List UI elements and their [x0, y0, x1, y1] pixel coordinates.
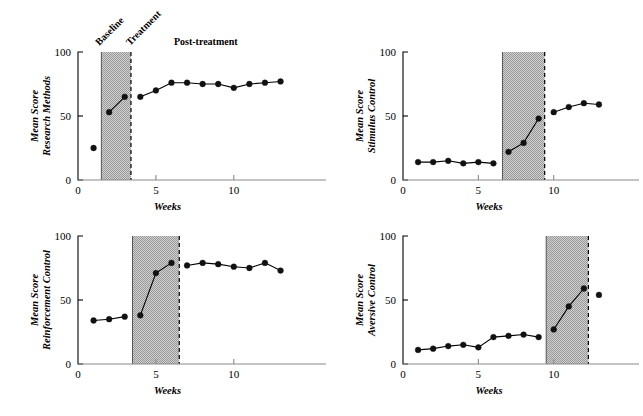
data-point [475, 344, 481, 350]
x-tick-label: 10 [228, 184, 240, 196]
y-tick-label: 50 [60, 110, 72, 122]
x-axis-title: Weeks [154, 201, 181, 212]
y-axis-title-top: Mean Score [29, 274, 40, 328]
data-point [536, 116, 542, 122]
x-tick-label: 0 [400, 184, 406, 196]
x-tick-label: 5 [153, 184, 159, 196]
treatment-band [546, 236, 588, 364]
x-tick-label: 10 [548, 184, 560, 196]
data-point [566, 304, 572, 310]
data-point [278, 79, 284, 85]
data-point [581, 100, 587, 106]
y-tick-label: 100 [55, 46, 72, 58]
data-point [200, 260, 206, 266]
x-tick-label: 5 [476, 184, 482, 196]
series-line-post-treatment [140, 81, 280, 96]
data-point [137, 312, 143, 318]
y-axis-title-bottom: Reinforcement Control [41, 250, 52, 351]
data-point [506, 333, 512, 339]
data-point [521, 332, 527, 338]
data-point [231, 85, 237, 91]
y-axis-title-bottom: Research Methods [41, 76, 52, 157]
y-tick-label: 0 [66, 174, 72, 186]
chart-panel-research-methods: 0501000510Mean ScoreResearch MethodsWeek… [0, 0, 330, 212]
multiple-baseline-figure: 0501000510Mean ScoreResearch MethodsWeek… [0, 0, 643, 416]
data-point [596, 292, 602, 298]
data-point [122, 94, 128, 100]
data-point [460, 160, 466, 166]
y-axis-title-top: Mean Score [29, 90, 40, 144]
x-tick-label: 10 [548, 368, 560, 380]
data-point [430, 346, 436, 352]
data-point [445, 158, 451, 164]
data-point [491, 160, 497, 166]
data-point [262, 80, 268, 86]
data-point [246, 265, 252, 271]
chart-panel-reinforcement-control: 0501000510Mean ScoreReinforcement Contro… [0, 212, 330, 416]
data-point [184, 263, 190, 269]
chart-panel-aversive-control: 0501000510Mean ScoreAversive ControlWeek… [330, 212, 643, 416]
data-point [581, 286, 587, 292]
data-point [551, 109, 557, 115]
data-point [231, 264, 237, 270]
x-axis-title: Weeks [475, 385, 502, 396]
y-tick-label: 50 [60, 294, 72, 306]
treatment-band [101, 52, 131, 180]
x-axis-title: Weeks [154, 385, 181, 396]
phase-label-treatment: Treatment [124, 8, 164, 48]
data-point [445, 343, 451, 349]
y-tick-label: 100 [380, 46, 397, 58]
data-point [262, 260, 268, 266]
data-point [415, 347, 421, 353]
phase-label-baseline: Baseline [93, 14, 126, 47]
data-point [169, 260, 175, 266]
data-point [506, 149, 512, 155]
data-point [521, 140, 527, 146]
data-point [215, 81, 221, 87]
data-point [153, 88, 159, 94]
y-tick-label: 100 [55, 230, 72, 242]
y-tick-label: 0 [391, 358, 397, 370]
x-tick-label: 5 [476, 368, 482, 380]
data-point [122, 314, 128, 320]
series-line-baseline [418, 161, 493, 164]
y-axis-title-top: Mean Score [354, 274, 365, 328]
data-point [184, 80, 190, 86]
data-point [536, 334, 542, 340]
data-point [551, 327, 557, 333]
y-axis-title-bottom: Aversive Control [366, 264, 377, 337]
phase-label-post-treatment: Post-treatment [174, 36, 238, 47]
x-tick-label: 0 [400, 368, 406, 380]
y-tick-label: 0 [391, 174, 397, 186]
treatment-band [133, 236, 180, 364]
y-tick-label: 100 [380, 230, 397, 242]
data-point [596, 102, 602, 108]
y-axis-title-top: Mean Score [354, 90, 365, 144]
x-tick-label: 10 [228, 368, 240, 380]
data-point [91, 145, 97, 151]
data-point [106, 316, 112, 322]
x-tick-label: 0 [75, 368, 81, 380]
data-point [169, 80, 175, 86]
data-point [137, 94, 143, 100]
data-point [491, 334, 497, 340]
data-point [246, 81, 252, 87]
data-point [475, 159, 481, 165]
data-point [106, 109, 112, 115]
data-point [153, 270, 159, 276]
data-point [430, 159, 436, 165]
y-axis-title-bottom: Stimulus Control [366, 79, 377, 153]
x-tick-label: 0 [75, 184, 81, 196]
data-point [215, 261, 221, 267]
y-tick-label: 0 [66, 358, 72, 370]
y-tick-label: 50 [385, 110, 397, 122]
x-tick-label: 5 [153, 368, 159, 380]
chart-panel-stimulus-control: 0501000510Mean ScoreStimulus ControlWeek… [330, 0, 643, 212]
data-point [200, 81, 206, 87]
data-point [91, 318, 97, 324]
data-point [415, 159, 421, 165]
data-point [278, 268, 284, 274]
series-line-post-treatment [554, 103, 599, 112]
data-point [460, 342, 466, 348]
data-point [566, 104, 572, 110]
